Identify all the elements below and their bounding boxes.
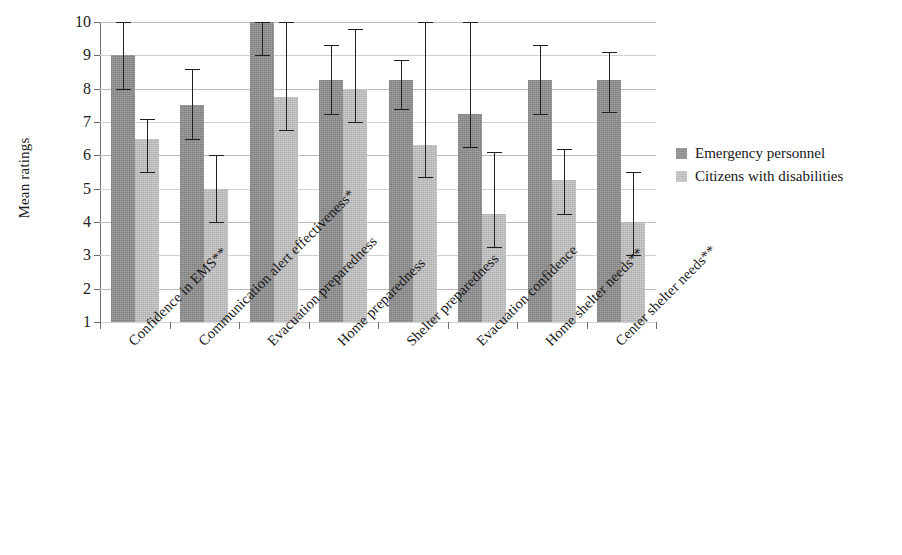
error-bar-cap: [487, 247, 502, 248]
x-tick-mark: [587, 322, 588, 329]
error-bar-cap: [140, 172, 155, 173]
error-bar-cap: [557, 214, 572, 215]
error-bar: [564, 149, 565, 214]
legend-item: Emergency personnel: [676, 142, 843, 165]
error-bar-cap: [463, 147, 478, 148]
error-bar-cap: [255, 22, 270, 23]
chart-legend: Emergency personnelCitizens with disabil…: [676, 142, 843, 188]
y-tick-label: 7: [83, 114, 91, 130]
error-bar: [331, 45, 332, 113]
error-bar-cap: [602, 52, 617, 53]
y-tick-mark: [94, 255, 100, 256]
error-bar: [286, 22, 287, 130]
error-bar-cap: [140, 119, 155, 120]
x-tick-mark: [100, 322, 101, 329]
error-bar: [147, 119, 148, 172]
error-bar-cap: [324, 114, 339, 115]
y-tick-label: 4: [83, 214, 91, 230]
y-tick-mark: [94, 122, 100, 123]
y-tick-mark: [94, 289, 100, 290]
x-tick-mark: [378, 322, 379, 329]
y-tick-mark: [94, 22, 100, 23]
error-bar: [216, 155, 217, 222]
error-bar: [633, 172, 634, 255]
legend-label: Emergency personnel: [695, 145, 825, 162]
y-tick-mark: [94, 155, 100, 156]
error-bar-cap: [602, 112, 617, 113]
y-tick-label: 1: [83, 314, 91, 330]
x-tick-mark: [170, 322, 171, 329]
y-tick-mark: [94, 55, 100, 56]
error-bar-cap: [185, 139, 200, 140]
x-tick-mark: [239, 322, 240, 329]
legend-swatch-icon: [676, 171, 687, 182]
y-tick-mark: [94, 189, 100, 190]
error-bar-cap: [394, 60, 409, 61]
error-bar-cap: [418, 22, 433, 23]
legend-label: Citizens with disabilities: [695, 168, 843, 185]
bar-group: [111, 22, 159, 322]
error-bar-cap: [324, 45, 339, 46]
error-bar: [494, 152, 495, 247]
error-bar-cap: [348, 29, 363, 30]
error-bar-cap: [209, 155, 224, 156]
error-bar-cap: [418, 177, 433, 178]
x-tick-mark: [517, 322, 518, 329]
x-tick-mark: [656, 322, 657, 329]
error-bar-cap: [463, 22, 478, 23]
y-tick-mark: [94, 89, 100, 90]
error-bar-cap: [279, 130, 294, 131]
error-bar-cap: [348, 122, 363, 123]
scan-artifact: [0, 509, 902, 555]
error-bar-cap: [533, 45, 548, 46]
error-bar: [425, 22, 426, 177]
error-bar-cap: [487, 152, 502, 153]
y-tick-label: 6: [83, 147, 91, 163]
error-bar: [192, 69, 193, 139]
legend-item: Citizens with disabilities: [676, 165, 843, 188]
bar: [111, 55, 135, 322]
error-bar: [355, 29, 356, 122]
x-tick-mark: [309, 322, 310, 329]
error-bar-cap: [557, 149, 572, 150]
y-tick-label: 2: [83, 281, 91, 297]
bar-chart-figure: Mean ratings 12345678910 Confidence in E…: [0, 0, 902, 555]
y-tick-mark: [94, 222, 100, 223]
y-tick-label: 8: [83, 81, 91, 97]
error-bar-cap: [626, 172, 641, 173]
error-bar: [609, 52, 610, 112]
error-bar-cap: [279, 22, 294, 23]
y-tick-label: 3: [83, 247, 91, 263]
y-tick-label: 10: [75, 14, 91, 30]
error-bar-cap: [394, 109, 409, 110]
error-bar-cap: [255, 55, 270, 56]
error-bar: [540, 45, 541, 113]
error-bar-cap: [185, 69, 200, 70]
error-bar: [262, 22, 263, 55]
error-bar-cap: [116, 22, 131, 23]
error-bar-cap: [209, 222, 224, 223]
error-bar-cap: [533, 114, 548, 115]
plot-area: 12345678910: [100, 22, 656, 322]
x-tick-mark: [448, 322, 449, 329]
y-tick-label: 9: [83, 47, 91, 63]
y-axis-title: Mean ratings: [16, 118, 33, 238]
legend-swatch-icon: [676, 148, 687, 159]
error-bar: [401, 60, 402, 108]
y-tick-label: 5: [83, 181, 91, 197]
error-bar: [470, 22, 471, 147]
error-bar: [123, 22, 124, 89]
error-bar-cap: [116, 89, 131, 90]
